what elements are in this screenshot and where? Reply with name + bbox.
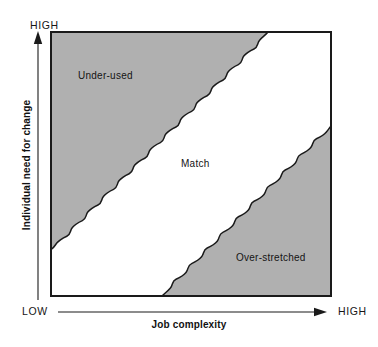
x-axis-high-label: HIGH — [338, 306, 367, 317]
region-label-under-used: Under-used — [78, 71, 133, 81]
x-axis-title: Job complexity — [0, 320, 378, 330]
region-label-match: Match — [181, 159, 209, 169]
arrow-up-icon — [34, 31, 42, 44]
y-axis-high-label: HIGH — [30, 20, 59, 31]
region-label-over-stretched: Over-stretched — [236, 253, 306, 263]
arrow-right-icon — [314, 308, 327, 316]
diagram-canvas — [0, 0, 378, 347]
diagram-root: HIGH LOW HIGH Job complexity Individual … — [0, 0, 378, 347]
x-axis-low-label: LOW — [22, 306, 48, 317]
y-axis-title: Individual need for change — [22, 40, 32, 290]
